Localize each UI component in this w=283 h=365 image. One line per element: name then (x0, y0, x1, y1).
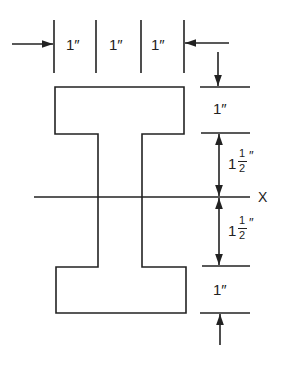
i-beam-diagram (0, 0, 283, 365)
dim-label-bottom-flange: 1″ (213, 282, 227, 297)
frac-numerator: 1 (239, 148, 245, 159)
frac-whole: 1 (228, 223, 236, 238)
x-axis-label: X (258, 190, 267, 204)
dim-label-left-width: 1″ (66, 37, 80, 52)
dim-label-web-width: 1″ (109, 37, 123, 52)
frac-denominator: 2 (239, 230, 245, 241)
dim-label-top-flange: 1″ (213, 101, 227, 116)
dim-label-right-width: 1″ (151, 37, 165, 52)
i-beam-outline (55, 87, 186, 313)
frac-numerator: 1 (239, 215, 245, 226)
dim-label-lower-web: 1 1 2 ″ (228, 215, 262, 245)
frac-denominator: 2 (239, 163, 245, 174)
frac-whole: 1 (228, 156, 236, 171)
inch-mark: ″ (249, 216, 254, 229)
dim-label-upper-web: 1 1 2 ″ (228, 148, 262, 178)
inch-mark: ″ (249, 149, 254, 162)
